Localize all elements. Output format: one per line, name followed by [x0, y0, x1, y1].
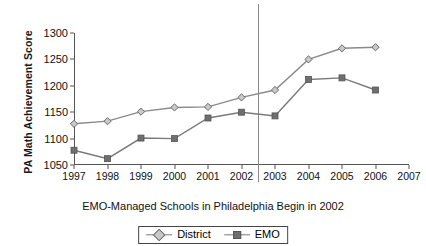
y-axis-label: PA Math Achievement Score: [22, 12, 34, 192]
legend-marker-square-icon: [224, 230, 250, 240]
data-point-emo: [172, 136, 178, 142]
y-tick-label: 1150: [44, 106, 68, 118]
data-point-district: [137, 108, 144, 115]
legend-label: District: [177, 229, 211, 240]
x-tick-label: 2004: [297, 170, 320, 182]
y-tick-label: 1300: [44, 27, 68, 39]
data-point-emo: [373, 87, 379, 93]
x-tick-label: 1998: [96, 170, 119, 182]
data-point-emo: [272, 113, 278, 119]
x-tick-mark: [308, 165, 309, 169]
x-tick-label: 2002: [230, 170, 253, 182]
chart-legend: DistrictEMO: [138, 226, 288, 244]
data-point-emo: [71, 147, 77, 153]
data-point-district: [171, 104, 178, 111]
x-tick-mark: [141, 165, 142, 169]
x-tick-mark: [342, 165, 343, 169]
data-point-emo: [339, 75, 345, 81]
x-tick-mark: [174, 165, 175, 169]
x-tick-mark: [275, 165, 276, 169]
x-tick-label: 2006: [364, 170, 387, 182]
legend-entry: District: [146, 229, 211, 240]
x-tick-mark: [208, 165, 209, 169]
data-point-district: [70, 120, 77, 127]
data-point-emo: [205, 115, 211, 121]
y-tick-label: 1250: [44, 53, 68, 65]
x-tick-label: 2001: [196, 170, 219, 182]
x-tick-mark: [107, 165, 108, 169]
data-point-emo: [138, 135, 144, 141]
chart-caption: EMO-Managed Schools in Philadelphia Begi…: [0, 200, 426, 212]
x-tick-label: 2000: [163, 170, 186, 182]
plot-area: 105011001150120012501300 199719981999200…: [74, 33, 409, 165]
legend-marker-diamond-icon: [146, 230, 172, 240]
data-point-emo: [306, 76, 312, 82]
data-point-district: [238, 94, 245, 101]
legend-entry: EMO: [224, 229, 280, 240]
x-tick-mark: [375, 165, 376, 169]
data-point-emo: [239, 109, 245, 115]
x-tick-mark: [74, 165, 75, 169]
x-tick-mark: [409, 165, 410, 169]
x-tick-label: 1999: [129, 170, 152, 182]
chart-figure: PA Math Achievement Score 10501100115012…: [0, 0, 426, 246]
data-point-district: [338, 45, 345, 52]
x-tick-label: 2003: [263, 170, 286, 182]
data-point-district: [104, 118, 111, 125]
x-tick-mark: [241, 165, 242, 169]
series-lines: [74, 33, 409, 165]
data-point-emo: [105, 156, 111, 162]
series-line-district: [74, 47, 376, 124]
legend-label: EMO: [255, 229, 280, 240]
y-tick-label: 1200: [44, 80, 68, 92]
x-tick-label: 2005: [330, 170, 353, 182]
y-tick-label: 1100: [44, 133, 68, 145]
x-tick-label: 2007: [397, 170, 420, 182]
data-point-district: [372, 44, 379, 51]
x-tick-label: 1997: [62, 170, 85, 182]
data-point-district: [204, 103, 211, 110]
